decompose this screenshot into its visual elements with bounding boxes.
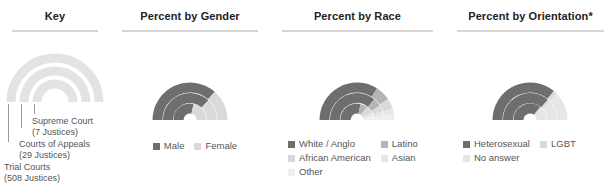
race-legend: White / AngloLatinoAfrican AmericanAsian… xyxy=(284,138,444,178)
gender-arc-chart xyxy=(120,46,260,124)
key-label-courts-of-appeals-count: (29 Justices) xyxy=(19,150,70,160)
race-title: Percent by Race xyxy=(270,10,445,22)
key-leader-line-supreme-court xyxy=(34,104,35,114)
arc-segment xyxy=(374,93,383,102)
key-leader-line-courts-of-appeals xyxy=(21,104,22,128)
arc-segment xyxy=(364,111,367,115)
orientation-title: Percent by Orientation* xyxy=(445,10,616,22)
legend-label: Other xyxy=(299,166,323,178)
legend-label: Female xyxy=(205,140,237,152)
panel-key: Key Supreme Court (7 Justices) Courts of… xyxy=(0,0,110,195)
legend-item[interactable]: African American xyxy=(288,152,371,164)
arc-segment xyxy=(551,95,553,97)
race-arc-chart xyxy=(286,46,429,124)
legend-swatch-icon xyxy=(463,155,470,162)
gender-arcs-svg xyxy=(120,46,260,124)
legend-swatch-icon xyxy=(288,141,295,148)
orientation-legend: HeterosexualLGBTNo answer xyxy=(459,138,614,164)
legend-item[interactable]: Heterosexual xyxy=(463,138,530,150)
key-label-supreme-court: Supreme Court (7 Justices) xyxy=(32,116,93,137)
legend-swatch-icon xyxy=(540,141,547,148)
orientation-arcs-svg xyxy=(459,46,602,124)
key-label-courts-of-appeals: Courts of Appeals (29 Justices) xyxy=(19,139,90,160)
legend-swatch-icon xyxy=(463,141,470,148)
arc-segment xyxy=(346,109,360,120)
legend-swatch-icon xyxy=(381,141,388,148)
arc-segment xyxy=(546,105,552,120)
key-label-trial-courts: Trial Courts (508 Justices) xyxy=(4,162,60,183)
key-leader-line-trial-courts xyxy=(8,104,9,142)
legend-swatch-icon xyxy=(194,143,201,150)
orientation-title-rule xyxy=(457,30,604,32)
legend-label: Asian xyxy=(392,152,416,164)
arc-segment xyxy=(545,104,546,105)
legend-swatch-icon xyxy=(381,155,388,162)
arc-segment xyxy=(537,111,538,112)
legend-item[interactable]: White / Anglo xyxy=(288,138,371,150)
legend-item[interactable]: Latino xyxy=(381,138,418,150)
legend-swatch-icon xyxy=(153,143,160,150)
key-label-supreme-court-name: Supreme Court xyxy=(32,116,93,126)
legend-label: White / Anglo xyxy=(299,138,355,150)
arc-segment xyxy=(193,109,202,120)
race-legend-grid: White / AngloLatinoAfrican AmericanAsian… xyxy=(284,138,444,178)
legend-item[interactable]: Male xyxy=(153,140,185,152)
race-title-rule xyxy=(282,30,433,32)
key-arcs-svg xyxy=(3,48,107,104)
arc-segment xyxy=(376,108,378,113)
gender-legend: MaleFemale xyxy=(130,140,260,152)
arc-segment xyxy=(367,115,368,117)
legend-label: African American xyxy=(299,152,371,164)
legend-label: Latino xyxy=(392,138,418,150)
legend-label: No answer xyxy=(474,152,519,164)
arc-segment xyxy=(538,112,541,120)
legend-swatch-icon xyxy=(288,155,295,162)
gender-title: Percent by Gender xyxy=(110,10,270,22)
key-title-rule xyxy=(12,30,98,32)
panel-gender: Percent by Gender MaleFemale xyxy=(110,0,270,195)
legend-item[interactable]: No answer xyxy=(463,152,530,164)
key-title: Key xyxy=(0,10,110,22)
legend-label: Heterosexual xyxy=(474,138,530,150)
race-arcs-svg xyxy=(286,46,429,124)
arc-segment xyxy=(388,110,389,115)
panel-orientation: Percent by Orientation* HeterosexualLGBT… xyxy=(445,0,616,195)
legend-item[interactable]: Asian xyxy=(381,152,418,164)
legend-label: LGBT xyxy=(551,138,576,150)
panel-race: Percent by Race White / AngloLatinoAfric… xyxy=(270,0,445,195)
gender-title-rule xyxy=(122,30,258,32)
arc-segment xyxy=(179,109,193,120)
key-label-trial-courts-count: (508 Justices) xyxy=(4,173,60,183)
legend-item[interactable]: Female xyxy=(194,140,237,152)
key-label-courts-of-appeals-name: Courts of Appeals xyxy=(19,139,90,149)
legend-label: Male xyxy=(164,140,185,152)
arc-segment xyxy=(360,109,365,111)
key-label-supreme-court-count: (7 Justices) xyxy=(32,127,78,137)
key-ring-supreme-court xyxy=(37,84,73,102)
arc-segment xyxy=(519,108,538,120)
arc-segment xyxy=(371,103,376,108)
key-arc-diagram xyxy=(3,48,107,104)
legend-swatch-icon xyxy=(288,169,295,176)
orientation-arc-chart xyxy=(459,46,602,124)
legend-item[interactable]: LGBT xyxy=(540,138,576,150)
key-label-trial-courts-name: Trial Courts xyxy=(4,162,50,172)
orientation-legend-grid: HeterosexualLGBTNo answer xyxy=(459,138,614,164)
arc-segment xyxy=(384,102,388,110)
gender-legend-grid: MaleFemale xyxy=(130,140,260,152)
arc-segment xyxy=(378,113,379,116)
infographic-root: Key Supreme Court (7 Justices) Courts of… xyxy=(0,0,616,195)
legend-item[interactable]: Other xyxy=(288,166,371,178)
